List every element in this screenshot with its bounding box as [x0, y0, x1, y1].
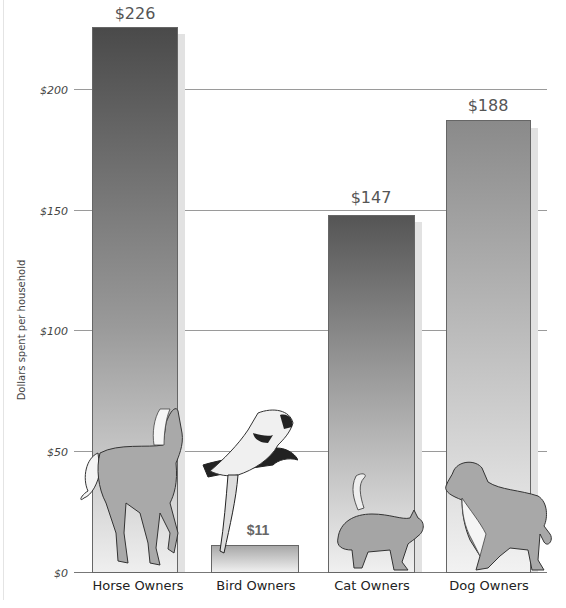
value-label-cat: $147 — [351, 188, 392, 207]
value-label-dog: $188 — [468, 96, 509, 115]
tick-label-100: $100 — [28, 325, 68, 338]
frame-border — [3, 0, 4, 600]
tick-label-50: $50 — [28, 446, 68, 459]
cat-illustration-icon — [328, 470, 428, 572]
dog-illustration-icon — [440, 460, 556, 574]
category-label-horse: Horse Owners — [92, 578, 183, 593]
tick-label-150: $150 — [28, 205, 68, 218]
tick-label-0: $0 — [28, 567, 68, 580]
horse-illustration-icon — [78, 403, 190, 571]
category-label-bird: Bird Owners — [216, 578, 295, 593]
tick-label-200: $200 — [28, 84, 68, 97]
category-label-cat: Cat Owners — [334, 578, 410, 593]
value-label-horse: $226 — [115, 4, 156, 23]
y-axis-label: Dollars spent per household — [16, 260, 27, 401]
parrot-illustration-icon — [198, 405, 298, 555]
category-label-dog: Dog Owners — [449, 578, 529, 593]
